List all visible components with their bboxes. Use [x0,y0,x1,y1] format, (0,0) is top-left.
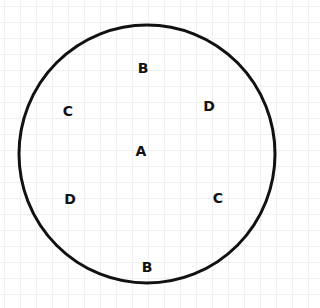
label-bottom-b: B [142,260,153,274]
label-right-c: C [213,191,223,205]
label-left-d: D [64,192,76,206]
label-top-b: B [138,61,149,75]
label-left-c: C [63,104,73,118]
label-center-a: A [136,144,147,158]
label-right-d: D [203,99,215,113]
